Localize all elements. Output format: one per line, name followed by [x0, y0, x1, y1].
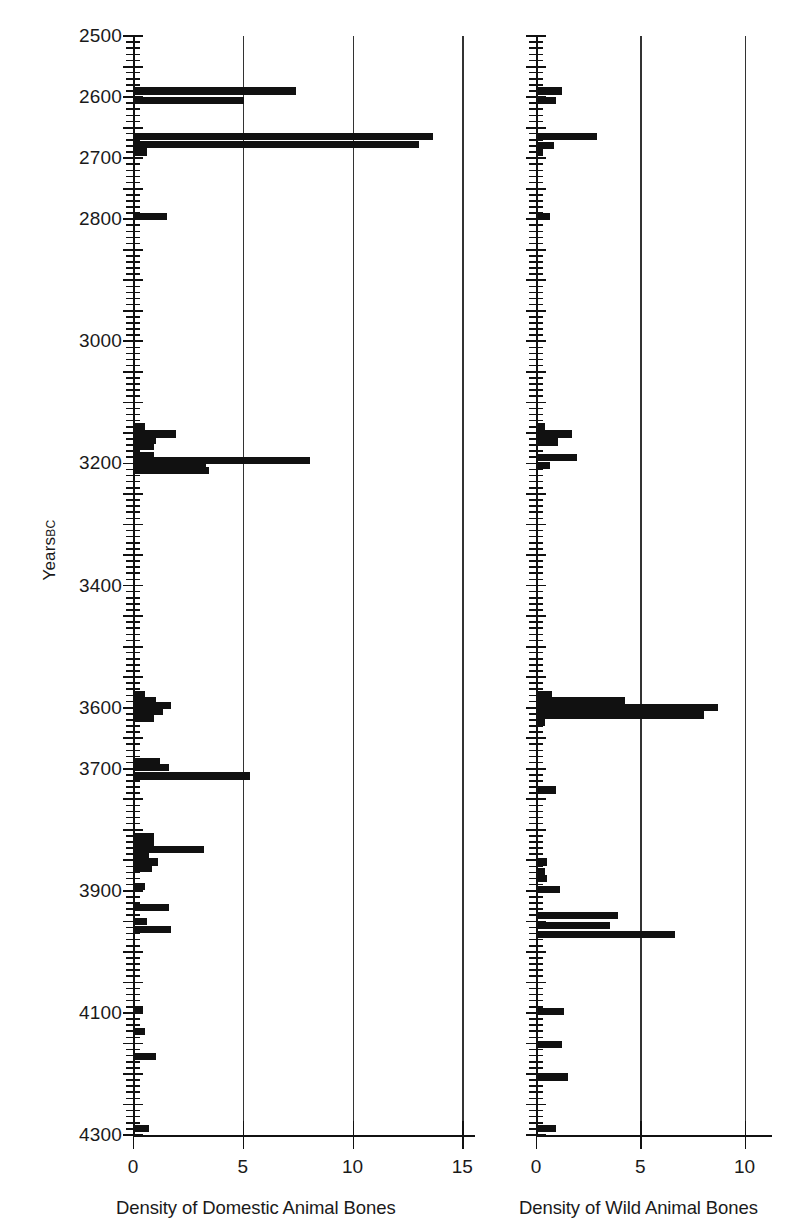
y-axis-tick [529, 347, 543, 349]
y-axis-tick [529, 560, 543, 562]
y-axis-tick [126, 1049, 140, 1051]
y-axis-tick [529, 273, 543, 275]
y-axis-tick [529, 1098, 543, 1100]
y-axis-tick [526, 402, 546, 404]
y-axis-tick [529, 1085, 543, 1087]
y-axis-tick [526, 524, 546, 526]
y-axis-tick [126, 322, 140, 324]
y-axis-tick [529, 420, 543, 422]
y-axis-tick [526, 982, 546, 984]
y-axis-tick [126, 731, 140, 733]
gridline [353, 36, 354, 1145]
y-axis-tick [123, 1043, 143, 1045]
y-axis-tick [123, 798, 143, 800]
y-axis-tick [126, 499, 140, 501]
y-axis-tick [529, 389, 543, 391]
y-axis-tick [529, 200, 543, 202]
y-axis-tick [529, 365, 543, 367]
y-axis-tick [123, 340, 143, 342]
y-axis-tick [529, 41, 543, 43]
y-axis-tick [123, 554, 143, 556]
y-axis-tick [529, 682, 543, 684]
y-axis-tick [126, 1061, 140, 1063]
bar [537, 711, 704, 718]
y-axis-tick [526, 157, 546, 159]
y-axis-tick [529, 108, 543, 110]
y-axis-tick [126, 243, 140, 245]
y-axis-tick [529, 969, 543, 971]
gridline [243, 36, 244, 1145]
bar [537, 786, 556, 793]
y-axis-tick [529, 963, 543, 965]
y-axis-tick [126, 383, 140, 385]
y-axis-tick [529, 60, 543, 62]
y-axis-tick [126, 792, 140, 794]
y-axis-tick [126, 182, 140, 184]
y-axis-tick [529, 395, 543, 397]
y-axis-tick [126, 273, 140, 275]
y-axis-tick [126, 914, 140, 916]
y-axis-tick [126, 518, 140, 520]
y-axis-tick [126, 963, 140, 965]
bar [537, 438, 558, 445]
y-axis-tick [126, 1116, 140, 1118]
y-axis-tick [529, 652, 543, 654]
x-axis-tick-label: 0 [516, 1157, 556, 1176]
y-axis-tick [126, 200, 140, 202]
y-axis-tick [126, 395, 140, 397]
y-axis-tick [529, 1024, 543, 1026]
y-axis-tick [529, 994, 543, 996]
y-axis-tick [126, 603, 140, 605]
y-axis-tick [126, 487, 140, 489]
y-axis-tick [529, 286, 543, 288]
x-axis-tick-label: 10 [333, 1157, 373, 1176]
y-axis-tick [126, 408, 140, 410]
y-axis-tick [529, 176, 543, 178]
y-axis-tick [126, 359, 140, 361]
y-axis-tick [529, 182, 543, 184]
y-axis-tick [529, 170, 543, 172]
bar [134, 141, 419, 148]
y-axis-tick [529, 499, 543, 501]
y-axis-tick [126, 511, 140, 513]
y-axis-tick [529, 481, 543, 483]
y-axis-tick [126, 634, 140, 636]
x-axis-title: Density of Domestic Animal Bones [116, 1197, 396, 1219]
y-axis-tick [126, 72, 140, 74]
y-axis-tick [126, 353, 140, 355]
x-axis-tick [462, 1121, 463, 1149]
y-axis-tick [123, 35, 143, 37]
y-axis-tick [126, 872, 140, 874]
gridline [462, 36, 463, 1145]
y-axis-tick [126, 267, 140, 269]
y-axis-tick [126, 658, 140, 660]
y-axis-tick [123, 982, 143, 984]
y-axis-tick [126, 548, 140, 550]
y-axis-tick [529, 902, 543, 904]
y-axis-tick [529, 267, 543, 269]
bar [537, 886, 560, 893]
y-axis-tick [529, 536, 543, 538]
y-axis-tick [126, 54, 140, 56]
y-axis-tick [126, 1000, 140, 1002]
y-axis-tick [123, 646, 143, 648]
bar [537, 454, 577, 461]
y-axis-tick [126, 975, 140, 977]
y-axis-tick [126, 224, 140, 226]
y-axis-tick [529, 511, 543, 513]
y-axis-tick [529, 1030, 543, 1032]
y-axis-tick [126, 957, 140, 959]
y-axis-tick [529, 817, 543, 819]
y-axis-tick [526, 127, 546, 129]
y-axis-tick [126, 1018, 140, 1020]
y-axis-tick [126, 811, 140, 813]
y-axis-tick [529, 505, 543, 507]
y-axis-tick [529, 487, 543, 489]
bar [537, 922, 610, 929]
y-axis-tick [529, 1000, 543, 1002]
y-axis-tick [529, 1018, 543, 1020]
y-axis-tick [123, 951, 143, 953]
bar [134, 148, 147, 155]
y-axis-tick [529, 975, 543, 977]
y-axis-tick [529, 1049, 543, 1051]
